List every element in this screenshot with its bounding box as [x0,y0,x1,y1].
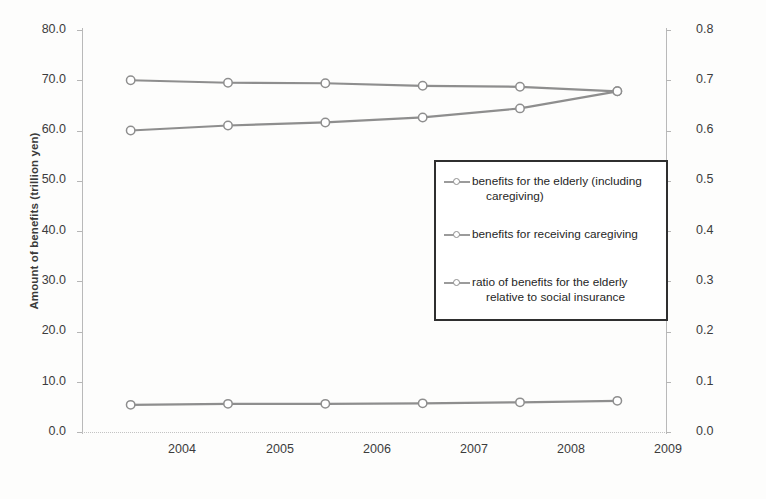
legend-label-ratio-line2: relative to social insurance [472,290,627,305]
y-tick-right-06: 0.6 [696,122,742,136]
series-markers-caregiving [126,87,621,135]
tickmark-right-00 [666,432,671,433]
tickmark-right-06 [666,131,671,132]
y-axis-right-ticks: 0.8 0.7 0.6 0.5 0.4 0.3 0.2 0.1 0.0 [696,0,746,499]
series-markers-elderly [126,76,621,95]
y-tick-left-30: 30.0 [20,273,66,287]
x-tick-2004: 2004 [152,442,212,456]
y-tick-left-10: 10.0 [20,374,66,388]
tickmark-left-50 [77,181,82,182]
tickmark-right-07 [666,80,671,81]
tickmark-left-40 [77,231,82,232]
legend-marker-icon [444,228,470,241]
x-axis-line [82,432,667,434]
tickmark-left-0 [77,432,82,433]
tickmark-right-08 [666,30,671,31]
y-tick-right-01: 0.1 [696,374,742,388]
y-tick-left-20: 20.0 [20,323,66,337]
y-tick-left-80: 80.0 [20,22,66,36]
x-tick-2007: 2007 [444,442,504,456]
tickmark-left-10 [77,382,82,383]
y-tick-left-0: 0.0 [20,424,66,438]
tickmark-left-70 [77,80,82,81]
y-tick-left-70: 70.0 [20,72,66,86]
chart-legend: benefits for the elderly (including care… [434,160,668,321]
tickmark-left-80 [77,30,82,31]
legend-label-caregiving: benefits for receiving caregiving [470,227,638,242]
series-line-ratio [131,401,618,405]
y-tick-left-40: 40.0 [20,223,66,237]
tickmark-left-60 [77,131,82,132]
y-tick-right-08: 0.8 [696,22,742,36]
series-markers-ratio [126,397,621,409]
y-tick-right-04: 0.4 [696,223,742,237]
legend-label-elderly-line2: caregiving) [472,189,642,204]
y-tick-left-60: 60.0 [20,122,66,136]
tickmark-left-30 [77,281,82,282]
legend-label-elderly-line1: benefits for the elderly (including [472,174,642,188]
x-tick-2008: 2008 [541,442,601,456]
chart-canvas: Amount of benefits (trillion yen) Ratio … [0,0,766,499]
legend-marker-icon [444,175,470,188]
legend-marker-icon [444,276,470,289]
legend-item-caregiving[interactable]: benefits for receiving caregiving [444,227,666,242]
series-line-caregiving [131,91,618,130]
legend-label-ratio-line1: ratio of benefits for the elderly [472,275,627,289]
y-tick-right-05: 0.5 [696,172,742,186]
legend-item-elderly[interactable]: benefits for the elderly (including care… [444,174,666,203]
legend-label-elderly: benefits for the elderly (including care… [470,174,642,203]
y-tick-left-50: 50.0 [20,172,66,186]
tickmark-right-01 [666,382,671,383]
legend-label-ratio: ratio of benefits for the elderly relati… [470,275,627,304]
y-axis-left-ticks: 80.0 70.0 60.0 50.0 40.0 30.0 20.0 10.0 … [20,0,66,499]
tickmark-left-20 [77,332,82,333]
y-tick-right-00: 0.0 [696,424,742,438]
y-axis-left-line [82,28,84,434]
tickmark-right-02 [666,332,671,333]
series-line-elderly [131,80,618,91]
x-tick-2005: 2005 [250,442,310,456]
y-tick-right-02: 0.2 [696,323,742,337]
y-tick-right-03: 0.3 [696,273,742,287]
y-tick-right-07: 0.7 [696,72,742,86]
legend-label-caregiving-line1: benefits for receiving caregiving [472,227,638,241]
x-tick-2006: 2006 [347,442,407,456]
legend-item-ratio[interactable]: ratio of benefits for the elderly relati… [444,275,666,304]
x-tick-2009: 2009 [638,442,698,456]
